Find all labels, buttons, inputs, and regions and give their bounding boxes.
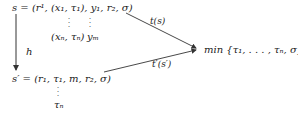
arrow-top-label: t(s) xyxy=(150,17,165,26)
bottom-eq: = xyxy=(23,73,31,84)
bottom-stack-tau: τₙ xyxy=(54,100,64,110)
top-lhs: s xyxy=(12,2,17,13)
diagram-arrows xyxy=(0,0,298,115)
arrow-bottom-label: t′(s′) xyxy=(152,60,171,69)
h-label: h xyxy=(26,47,32,57)
bottom-tuple: (r₁, τ₁, m, r₂, σ) xyxy=(34,73,111,84)
top-vdots-2: ··· xyxy=(88,17,92,29)
arrow-t-prime xyxy=(104,50,196,72)
top-tuple: (r¹, (x₁, τ₁), y₁, r₂, σ) xyxy=(32,2,133,13)
top-eq: = xyxy=(20,2,28,13)
target-formula: min {τ₁, . . . , τₙ, σ} xyxy=(204,45,298,55)
top-formula: s = (r¹, (x₁, τ₁), y₁, r₂, σ) xyxy=(12,3,133,13)
bottom-formula: s′ = (r₁, τ₁, m, r₂, σ) xyxy=(12,74,111,84)
top-vdots-1: ··· xyxy=(67,17,71,29)
top-stack-y: yₘ xyxy=(87,32,99,42)
bottom-vdots: ··· xyxy=(56,86,60,98)
bottom-lhs: s′ xyxy=(12,73,19,84)
top-stack-pair: (xₙ, τₙ) xyxy=(51,32,84,42)
